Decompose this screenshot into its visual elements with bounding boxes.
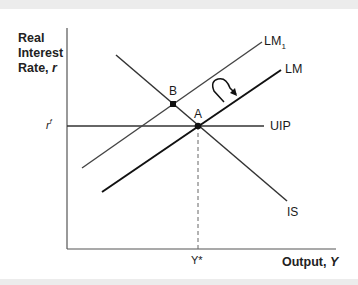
x-axis-var: Y xyxy=(330,255,338,269)
ystar-label: Y* xyxy=(191,254,203,266)
point-b-marker xyxy=(170,101,176,107)
lm1-label: LM1 xyxy=(264,34,286,51)
shift-arrow-icon xyxy=(213,79,236,102)
point-a-marker xyxy=(195,123,202,130)
lm1-label-text: LM xyxy=(264,34,281,48)
x-axis-label: Output, Y xyxy=(282,255,338,269)
y-axis-var: r xyxy=(52,61,57,75)
point-a-label: A xyxy=(194,107,202,121)
lm-label: LM xyxy=(285,62,302,76)
lm1-label-sub: 1 xyxy=(281,42,285,51)
rf-label-sup: f xyxy=(50,118,52,125)
rf-label: rf xyxy=(46,118,52,131)
y-axis-label-line2: Interest xyxy=(18,46,63,61)
y-axis-label-line1: Real xyxy=(18,31,63,46)
is-curve xyxy=(116,55,287,201)
uip-label: UIP xyxy=(270,119,291,133)
x-axis-label-text: Output, xyxy=(282,255,330,269)
point-b-label: B xyxy=(169,84,177,98)
y-axis-label-line3: Rate, xyxy=(18,61,52,75)
is-label: IS xyxy=(287,205,298,219)
y-axis-label: Real Interest Rate, r xyxy=(18,31,63,76)
